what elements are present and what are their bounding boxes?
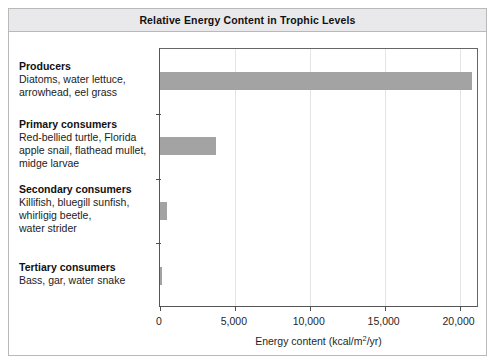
category-heading: Tertiary consumers xyxy=(19,261,161,274)
category-description-line: Bass, gar, water snake xyxy=(19,274,161,287)
category-description-line: midge larvae xyxy=(19,157,161,170)
bar-primary-consumers xyxy=(160,137,216,155)
category-description-line: whirligig beetle, xyxy=(19,209,161,222)
category-description-line: Diatoms, water lettuce, xyxy=(19,73,161,86)
category-description-line: arrowhead, eel grass xyxy=(19,86,161,99)
chart-title-bar: Relative Energy Content in Trophic Level… xyxy=(9,9,486,32)
category-description-line: Killifish, bluegill sunfish, xyxy=(19,196,161,209)
category-heading: Producers xyxy=(19,60,161,73)
y-axis-tick xyxy=(156,179,161,180)
x-axis-tick-label: 15,000 xyxy=(368,315,400,327)
x-axis-tick xyxy=(160,306,161,311)
category-label-tertiary-consumers: Tertiary consumersBass, gar, water snake xyxy=(19,261,161,287)
bar-secondary-consumers xyxy=(160,202,167,220)
bar-producers xyxy=(160,72,472,90)
category-heading: Primary consumers xyxy=(19,118,161,131)
x-axis-tick xyxy=(310,306,311,311)
category-label-column: ProducersDiatoms, water lettuce,arrowhea… xyxy=(19,40,161,310)
page-title: Relative Energy Content in Trophic Level… xyxy=(139,14,355,26)
bar-tertiary-consumers xyxy=(160,267,162,285)
plot-area xyxy=(159,48,478,307)
category-description-line: water strider xyxy=(19,222,161,235)
x-axis-tick xyxy=(460,306,461,311)
x-axis-tick xyxy=(235,306,236,311)
category-description-line: Red-bellied turtle, Florida xyxy=(19,131,161,144)
category-label-primary-consumers: Primary consumersRed-bellied turtle, Flo… xyxy=(19,118,161,170)
x-axis-tick-label: 10,000 xyxy=(293,315,325,327)
x-axis-title-superscript: 2 xyxy=(363,334,367,343)
x-axis-tick-label: 20,000 xyxy=(442,315,474,327)
category-heading: Secondary consumers xyxy=(19,183,161,196)
category-label-producers: ProducersDiatoms, water lettuce,arrowhea… xyxy=(19,60,161,99)
category-label-secondary-consumers: Secondary consumersKillifish, bluegill s… xyxy=(19,183,161,235)
chart-figure: Relative Energy Content in Trophic Level… xyxy=(8,8,487,356)
x-axis-tick xyxy=(385,306,386,311)
x-axis-tick-label: 5,000 xyxy=(221,315,247,327)
category-description-line: apple snail, flathead mullet, xyxy=(19,144,161,157)
y-axis-tick xyxy=(156,114,161,115)
y-axis-tick xyxy=(156,243,161,244)
x-axis-tick-label: 0 xyxy=(156,315,162,327)
x-axis-title: Energy content (kcal/m2/yr) xyxy=(159,335,478,347)
